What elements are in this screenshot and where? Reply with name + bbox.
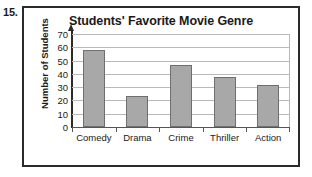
bar-crime [170,65,192,127]
y-axis-tick-labels: 706050403020100 [44,34,68,127]
y-tick-label: 10 [46,108,68,119]
worksheet-page: 15. Students' Favorite Movie Genre Numbe… [0,0,312,177]
chart-figure-frame: Students' Favorite Movie Genre Number of… [22,6,300,167]
bar-action [257,85,279,128]
x-axis-category-labels: ComedyDramaCrimeThrillerAction [72,132,290,148]
y-tick-label: 50 [46,55,68,66]
y-tick-label: 40 [46,68,68,79]
y-tick-label: 60 [46,42,68,53]
chart-title: Students' Favorite Movie Genre [24,14,298,28]
x-label-action: Action [242,132,294,143]
gridline [72,47,290,48]
bar-comedy [83,50,105,127]
question-number: 15. [3,6,18,18]
bar-drama [126,96,148,127]
y-tick-label: 0 [46,122,68,133]
y-tick-label: 70 [46,29,68,40]
y-tick-label: 30 [46,82,68,93]
bar-thriller [214,77,236,127]
y-tick-label: 20 [46,95,68,106]
plot-area [72,34,290,127]
gridline [72,34,290,35]
